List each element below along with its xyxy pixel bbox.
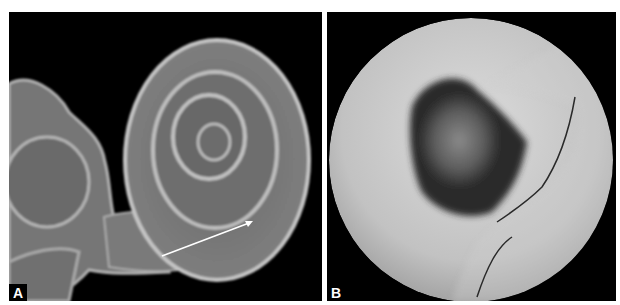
cochlea-rendering <box>9 12 322 301</box>
panel-b-virtual-endoscopy: B <box>327 12 616 301</box>
panel-label-b: B <box>327 284 345 301</box>
endoscopy-view <box>327 12 616 301</box>
panel-a-cochlea-3d-render: A <box>9 12 322 301</box>
panel-label-a: A <box>9 284 27 301</box>
